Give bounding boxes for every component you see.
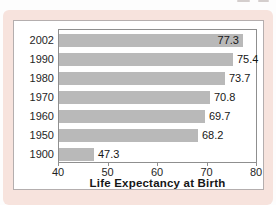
bar-value-label: 73.7 <box>229 72 250 85</box>
bar-value-label: 77.3 <box>59 34 239 47</box>
y-axis-label: 1900 <box>14 148 54 161</box>
cropped-text-artifact <box>237 0 250 2</box>
figure-card: 2002199019801970196019501900 77.375.473.… <box>3 10 273 205</box>
y-axis-label: 1970 <box>14 91 54 104</box>
bar <box>59 110 205 123</box>
y-axis-label: 1980 <box>14 72 54 85</box>
figure-root: 2002199019801970196019501900 77.375.473.… <box>0 0 276 205</box>
bar-value-label: 75.4 <box>237 53 258 66</box>
y-axis-label: 1990 <box>14 53 54 66</box>
bar-value-label: 70.8 <box>214 91 235 104</box>
bar-value-label: 68.2 <box>202 129 223 142</box>
bar <box>59 72 225 85</box>
chart-panel: 2002199019801970196019501900 77.375.473.… <box>13 20 264 190</box>
bar <box>59 148 94 161</box>
bar-value-label: 69.7 <box>209 110 230 123</box>
bar <box>59 53 233 66</box>
bar <box>59 91 210 104</box>
y-axis-label: 2002 <box>14 34 54 47</box>
y-axis-label: 1960 <box>14 110 54 123</box>
bar <box>59 129 198 142</box>
bar-value-label: 47.3 <box>98 148 119 161</box>
cropped-text-artifact <box>258 0 269 2</box>
x-axis-title: Life Expectancy at Birth <box>58 177 257 189</box>
y-axis-label: 1950 <box>14 129 54 142</box>
